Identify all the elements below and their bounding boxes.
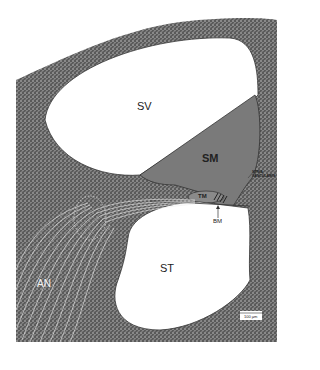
label-st: ST: [160, 262, 174, 274]
label-stria-vascularis: STRIA VASCULARIS: [252, 170, 275, 178]
label-an: AN: [37, 278, 51, 289]
label-stria-line2: VASCULARIS: [252, 174, 275, 178]
label-sm: SM: [202, 152, 219, 164]
label-bm: BM: [213, 218, 222, 224]
label-sv: SV: [137, 100, 152, 112]
label-tm: TM: [198, 193, 207, 199]
scale-bar-label: 100 µm: [244, 314, 257, 319]
